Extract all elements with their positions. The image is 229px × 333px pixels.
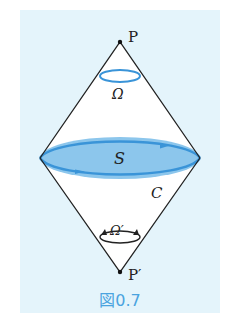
label-omega: Ω bbox=[111, 86, 124, 102]
double-cone-diagram: P P′ Ω Ω′ S C 図0.7 bbox=[0, 0, 229, 333]
label-curve-c: C bbox=[151, 184, 163, 202]
label-surface-s: S bbox=[114, 149, 125, 168]
point-p-dot bbox=[118, 40, 122, 44]
label-omega-prime: Ω′ bbox=[109, 223, 124, 238]
point-p-prime-dot bbox=[118, 270, 122, 274]
figure-caption: 図0.7 bbox=[99, 291, 140, 310]
label-p: P bbox=[128, 28, 138, 46]
label-p-prime: P′ bbox=[128, 266, 142, 284]
